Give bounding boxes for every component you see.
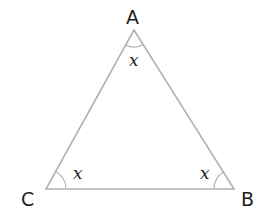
angle-label-c: x bbox=[73, 163, 83, 183]
triangle-diagram: A B C x x x bbox=[0, 0, 265, 223]
vertex-label-a: A bbox=[126, 6, 139, 28]
angle-arc-c bbox=[56, 172, 66, 190]
vertex-label-b: B bbox=[241, 188, 254, 210]
angle-arc-b bbox=[214, 172, 223, 189]
angle-label-a: x bbox=[129, 50, 139, 70]
angle-arc-a bbox=[126, 44, 143, 47]
vertex-label-c: C bbox=[21, 188, 34, 210]
edge-ca bbox=[46, 30, 134, 189]
angle-label-b: x bbox=[200, 163, 210, 183]
edge-ab bbox=[134, 30, 234, 189]
